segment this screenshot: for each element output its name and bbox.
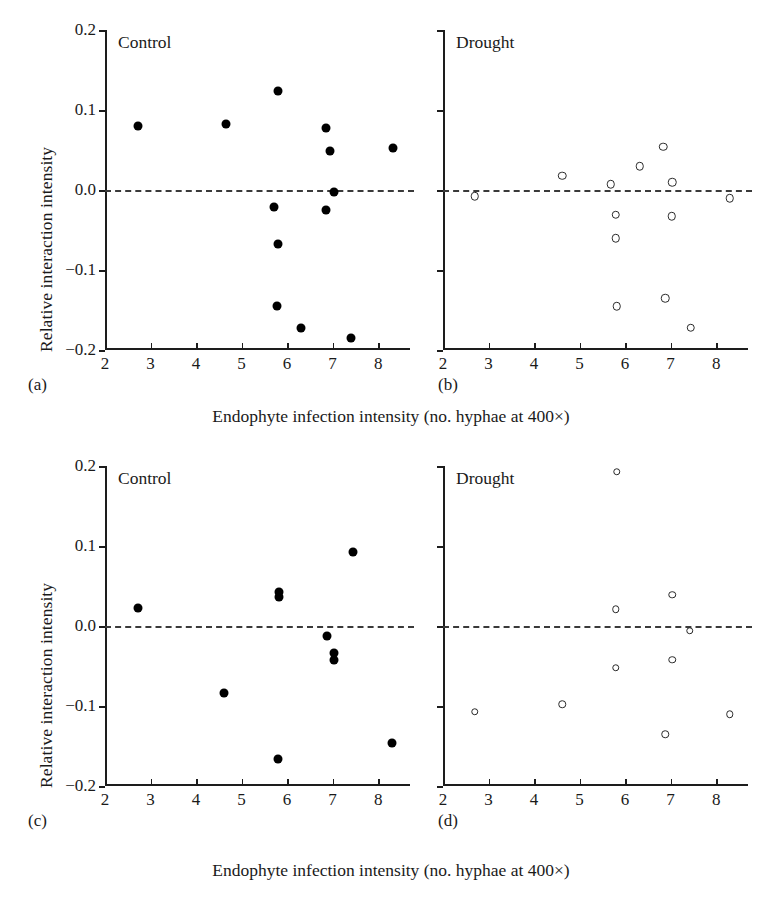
x-tick-plot-a bbox=[242, 343, 244, 350]
data-point bbox=[273, 754, 282, 763]
x-tick-plot-a bbox=[105, 343, 107, 350]
data-point bbox=[612, 234, 621, 243]
x-tick-label: 3 bbox=[484, 355, 493, 372]
x-tick-plot-b bbox=[625, 343, 627, 350]
x-tick-plot-d bbox=[671, 779, 673, 786]
x-tick-plot-b bbox=[671, 343, 673, 350]
x-tick-plot-b bbox=[489, 343, 491, 350]
y-tick-plot-a bbox=[99, 270, 105, 272]
data-point bbox=[661, 730, 669, 738]
data-point bbox=[326, 146, 335, 155]
x-tick-label: 3 bbox=[146, 791, 155, 808]
x-tick-plot-d bbox=[534, 779, 536, 786]
x-tick-label: 2 bbox=[101, 791, 110, 808]
plot-area-a: Control 0.20.10.0−0.1−0.22345678 bbox=[105, 30, 410, 350]
x-tick-plot-c bbox=[287, 779, 289, 786]
y-tick-plot-a bbox=[99, 30, 105, 32]
data-point bbox=[387, 738, 396, 747]
x-tick-label: 5 bbox=[575, 791, 584, 808]
x-tick-label: 5 bbox=[237, 791, 246, 808]
panel-label-a: (a) bbox=[28, 375, 47, 395]
x-tick-label: 7 bbox=[328, 355, 337, 372]
data-point bbox=[659, 143, 668, 152]
x-tick-plot-d bbox=[716, 779, 718, 786]
data-point bbox=[322, 206, 331, 215]
y-tick-label: 0.1 bbox=[75, 101, 96, 118]
x-tick-plot-d bbox=[443, 779, 445, 786]
x-tick-plot-c bbox=[151, 779, 153, 786]
data-point bbox=[274, 593, 283, 602]
y-tick-plot-d bbox=[437, 786, 443, 788]
data-point bbox=[471, 192, 480, 201]
y-tick-label: −0.1 bbox=[65, 697, 96, 714]
data-point bbox=[558, 171, 567, 180]
x-tick-plot-a bbox=[151, 343, 153, 350]
y-tick-plot-d bbox=[437, 466, 443, 468]
x-tick-plot-a bbox=[333, 343, 335, 350]
plot-area-d: Drought 0.20.10.0−0.1−0.22345678 bbox=[443, 466, 748, 786]
zero-reference-line bbox=[443, 626, 752, 628]
data-point bbox=[613, 468, 621, 476]
data-point bbox=[612, 605, 620, 613]
x-tick-label: 7 bbox=[666, 355, 675, 372]
x-tick-label: 7 bbox=[666, 791, 675, 808]
zero-reference-line bbox=[443, 190, 752, 192]
data-point bbox=[329, 655, 338, 664]
panel-title-b: Drought bbox=[456, 32, 514, 53]
figure-root: Relative interaction intensity Control 0… bbox=[0, 0, 782, 897]
y-tick-label: 0.1 bbox=[75, 537, 96, 554]
data-point bbox=[471, 708, 479, 716]
data-point bbox=[273, 86, 282, 95]
x-tick-plot-a bbox=[378, 343, 380, 350]
x-tick-label: 6 bbox=[283, 791, 292, 808]
x-tick-label: 2 bbox=[101, 355, 110, 372]
y-tick-label: −0.2 bbox=[65, 777, 96, 794]
y-tick-plot-a bbox=[99, 110, 105, 112]
data-point bbox=[669, 591, 677, 599]
data-point bbox=[323, 631, 332, 640]
data-point bbox=[270, 202, 279, 211]
data-point bbox=[686, 323, 695, 332]
x-tick-label: 3 bbox=[484, 791, 493, 808]
x-tick-plot-a bbox=[287, 343, 289, 350]
panel-c: Control 0.20.10.0−0.1−0.22345678 (c) bbox=[0, 436, 430, 836]
panel-b: Drought 0.20.10.0−0.1−0.22345678 (b) bbox=[430, 0, 782, 400]
data-point bbox=[612, 211, 621, 220]
y-tick-plot-b bbox=[437, 270, 443, 272]
data-point bbox=[669, 656, 677, 664]
x-tick-plot-c bbox=[105, 779, 107, 786]
data-point bbox=[273, 302, 282, 311]
y-tick-plot-c bbox=[99, 706, 105, 708]
y-tick-plot-b bbox=[437, 30, 443, 32]
data-point bbox=[686, 627, 694, 635]
plot-area-c: Control 0.20.10.0−0.1−0.22345678 bbox=[105, 466, 410, 786]
y-tick-plot-c bbox=[99, 546, 105, 548]
x-tick-label: 5 bbox=[237, 355, 246, 372]
y-tick-label: 0.0 bbox=[75, 617, 96, 634]
data-point bbox=[606, 180, 615, 189]
x-tick-label: 7 bbox=[328, 791, 337, 808]
y-tick-label: 0.0 bbox=[75, 181, 96, 198]
panel-title-d: Drought bbox=[456, 468, 514, 489]
data-point bbox=[661, 294, 670, 303]
data-point bbox=[273, 240, 282, 249]
data-point bbox=[133, 604, 142, 613]
data-point bbox=[612, 664, 620, 672]
panel-title-a: Control bbox=[118, 32, 171, 53]
data-point bbox=[329, 187, 338, 196]
y-tick-plot-b bbox=[437, 350, 443, 352]
data-point bbox=[388, 143, 397, 152]
y-tick-plot-d bbox=[437, 546, 443, 548]
x-tick-label: 6 bbox=[283, 355, 292, 372]
x-tick-label: 2 bbox=[439, 791, 448, 808]
x-tick-label: 4 bbox=[192, 355, 201, 372]
x-tick-plot-c bbox=[242, 779, 244, 786]
x-axis-title-top: Endophyte infection intensity (no. hypha… bbox=[0, 406, 782, 427]
panel-label-b: (b) bbox=[438, 375, 458, 395]
data-point bbox=[635, 162, 644, 171]
x-tick-label: 4 bbox=[530, 355, 539, 372]
x-tick-plot-d bbox=[580, 779, 582, 786]
x-tick-label: 2 bbox=[439, 355, 448, 372]
y-tick-label: −0.2 bbox=[65, 341, 96, 358]
data-point bbox=[668, 178, 677, 187]
